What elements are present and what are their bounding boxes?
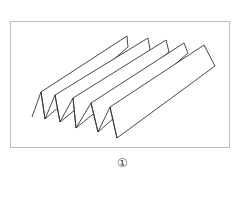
figure-caption: ① <box>112 156 132 170</box>
folded-strips-diagram <box>0 0 245 214</box>
